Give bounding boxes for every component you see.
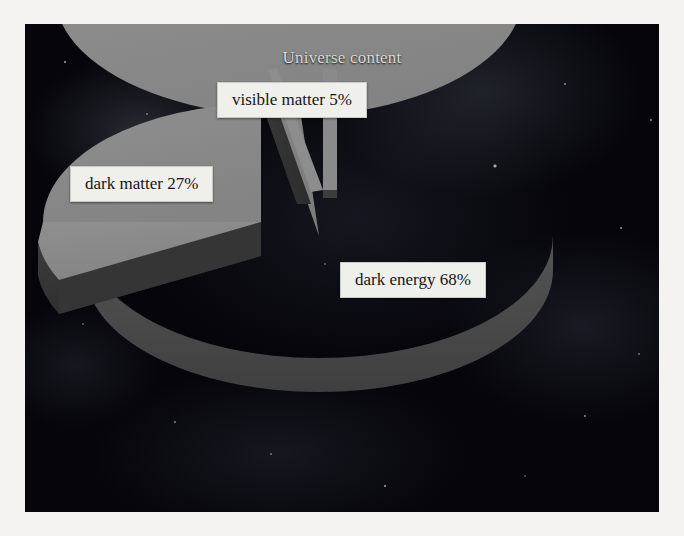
- label-dark-matter: dark matter 27%: [70, 166, 213, 202]
- label-visible-matter: visible matter 5%: [217, 82, 367, 118]
- slice-dark-matter-top: [43, 104, 261, 222]
- starfield-photo: Universe content visible matter 5% dark …: [25, 24, 659, 512]
- label-dark-energy: dark energy 68%: [340, 262, 486, 298]
- slice-dark-matter: [38, 104, 261, 314]
- page-canvas: Universe content visible matter 5% dark …: [0, 0, 684, 536]
